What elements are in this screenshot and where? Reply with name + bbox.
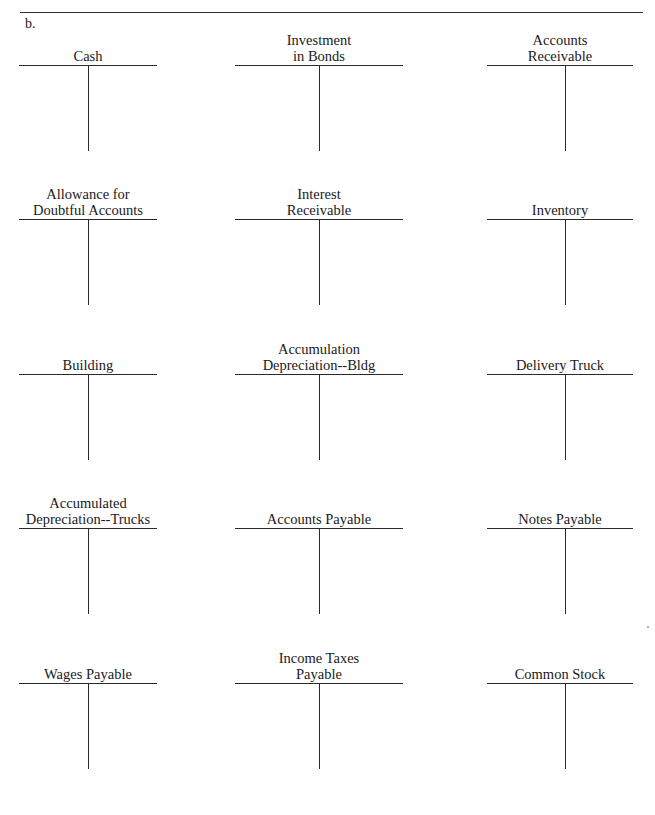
top-divider-rule <box>20 12 643 13</box>
t-account-vertical-rule <box>88 65 89 151</box>
t-account-title: Accounts Payable <box>235 511 403 527</box>
t-account-vertical-rule <box>88 528 89 614</box>
t-account-vertical-rule <box>319 374 320 460</box>
t-account-title: Building <box>19 357 157 373</box>
t-account-horizontal-rule <box>487 683 633 684</box>
t-account-vertical-rule <box>565 374 566 460</box>
t-account-title: Accounts Receivable <box>487 32 633 64</box>
t-account-title: Accumulated Depreciation--Trucks <box>19 495 157 527</box>
t-account-vertical-rule <box>319 683 320 769</box>
t-account-vertical-rule <box>565 65 566 151</box>
t-account-vertical-rule <box>319 65 320 151</box>
t-account-title: Cash <box>19 48 157 64</box>
t-account-title: Inventory <box>487 202 633 218</box>
t-account-vertical-rule <box>319 528 320 614</box>
t-account-horizontal-rule <box>487 65 633 66</box>
t-account-title: Wages Payable <box>19 666 157 682</box>
t-account-title: Investment in Bonds <box>235 32 403 64</box>
t-account-vertical-rule <box>565 528 566 614</box>
t-account-title: Accumulation Depreciation--Bldg <box>235 341 403 373</box>
t-account-horizontal-rule <box>487 528 633 529</box>
t-account-title: Common Stock <box>487 666 633 682</box>
part-label: b. <box>25 16 36 32</box>
t-account-title: Income Taxes Payable <box>235 650 403 682</box>
t-account-vertical-rule <box>88 374 89 460</box>
t-account-vertical-rule <box>88 219 89 305</box>
t-account-vertical-rule <box>319 219 320 305</box>
t-account-title: Notes Payable <box>487 511 633 527</box>
t-account-horizontal-rule <box>487 219 633 220</box>
t-account-title: Allowance for Doubtful Accounts <box>19 186 157 218</box>
t-account-horizontal-rule <box>487 374 633 375</box>
t-account-title: Interest Receivable <box>235 186 403 218</box>
t-account-vertical-rule <box>565 219 566 305</box>
t-account-title: Delivery Truck <box>487 357 633 373</box>
t-account-vertical-rule <box>88 683 89 769</box>
t-account-vertical-rule <box>565 683 566 769</box>
scan-speck <box>647 626 649 628</box>
